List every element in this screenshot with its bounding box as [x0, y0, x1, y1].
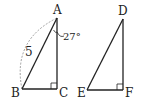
vertex-label-e: E — [77, 86, 86, 100]
triangle-def: D E F — [77, 4, 133, 100]
triangle-abc: A B C 5 27° — [11, 3, 81, 100]
side-de — [87, 19, 123, 90]
vertex-label-d: D — [118, 4, 128, 18]
vertex-label-b: B — [11, 86, 20, 100]
angle-a-label: 27° — [63, 31, 81, 42]
vertex-label-c: C — [59, 86, 68, 100]
geometry-figure: A B C 5 27° D E F — [0, 0, 144, 100]
vertex-label-f: F — [125, 86, 133, 100]
right-angle-mark-f — [117, 84, 123, 90]
right-angle-mark-c — [51, 83, 57, 89]
vertex-label-a: A — [52, 3, 62, 17]
side-ab-length-label: 5 — [25, 45, 33, 59]
